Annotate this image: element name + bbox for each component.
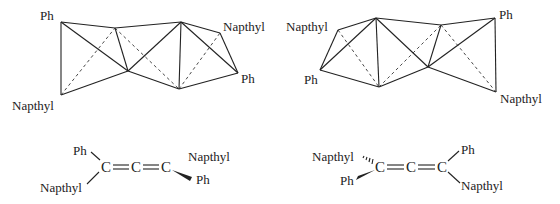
left-model-hidden-edges xyxy=(61,28,220,95)
right-model-label-napthyl-right: Napthyl xyxy=(500,91,542,106)
left-model-label-ph-top: Ph xyxy=(40,8,54,23)
left-formula-wedge-bond xyxy=(172,170,192,181)
right-formula-c2: C xyxy=(406,159,416,175)
right-formula-c3: C xyxy=(437,159,447,175)
right-model-solid-edges xyxy=(320,18,496,92)
left-tetrahedron-model: Ph Napthyl Napthyl Ph xyxy=(12,8,265,113)
left-model-label-ph-right: Ph xyxy=(241,71,255,86)
left-formula-napthyl-bottom: Napthyl xyxy=(40,180,82,195)
left-formula-napthyl-right: Napthyl xyxy=(188,149,230,164)
right-model-label-ph-left: Ph xyxy=(304,72,318,87)
right-tetrahedron-model: Napthyl Ph Ph Napthyl xyxy=(286,7,542,106)
cumulene-diagram: Ph Napthyl Napthyl Ph Napthyl Ph xyxy=(0,0,560,204)
left-formula-c1: C xyxy=(101,159,111,175)
left-formula-c2: C xyxy=(131,159,141,175)
right-line-formula: Napthyl Ph C C C Ph Napthyl xyxy=(312,142,503,193)
right-formula-ph-right: Ph xyxy=(461,142,475,157)
right-model-label-ph-right: Ph xyxy=(499,7,513,22)
left-model-label-napthyl-bottom: Napthyl xyxy=(12,98,54,113)
left-formula-bond-napthyl xyxy=(87,172,99,184)
left-formula-ph-top: Ph xyxy=(73,143,87,158)
right-formula-napthyl-right: Napthyl xyxy=(461,178,503,193)
right-formula-bond-ph xyxy=(448,151,459,161)
left-formula-ph-right: Ph xyxy=(196,172,210,187)
right-formula-napthyl-left: Napthyl xyxy=(312,149,354,164)
right-formula-ph-left: Ph xyxy=(340,173,354,188)
right-formula-c1: C xyxy=(375,159,385,175)
left-formula-c3: C xyxy=(161,159,171,175)
left-model-solid-edges xyxy=(61,22,238,95)
left-formula-bond-ph xyxy=(91,152,100,160)
left-line-formula: Ph Napthyl C C C Napthyl Ph xyxy=(40,143,230,195)
right-formula-bond-napthyl xyxy=(448,172,460,183)
right-model-label-napthyl-left: Napthyl xyxy=(286,19,328,34)
right-formula-hash-bond xyxy=(363,156,373,164)
left-model-label-napthyl-right: Napthyl xyxy=(223,19,265,34)
right-formula-wedge-bond xyxy=(356,170,375,180)
